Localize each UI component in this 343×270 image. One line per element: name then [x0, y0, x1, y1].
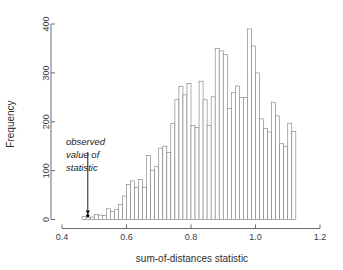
annotation-line: observed: [66, 136, 106, 147]
annotation-arrowhead-icon: [86, 211, 90, 215]
histogram-bar: [203, 100, 207, 220]
observed-value-annotation: observedvalue ofstatistic: [66, 136, 106, 217]
histogram-bar: [268, 132, 272, 219]
histogram-bars: [82, 29, 296, 220]
histogram-bar: [143, 187, 147, 219]
histogram-bar: [264, 129, 268, 220]
chart-canvas: 0100200300400 0.40.60.81.01.2 Frequency …: [0, 0, 343, 270]
histogram-bar: [231, 92, 235, 219]
histogram-bar: [151, 170, 155, 219]
histogram-bar: [102, 216, 106, 220]
y-tick-label: 100: [41, 163, 51, 178]
histogram-bar: [247, 29, 251, 220]
histogram-bar: [94, 215, 98, 220]
annotation-line: statistic: [66, 162, 98, 173]
histogram-bar: [272, 102, 276, 219]
histogram-bar: [191, 126, 195, 220]
y-tick-label: 0: [41, 217, 51, 222]
x-tick-label: 1.0: [249, 232, 262, 242]
histogram-bar: [118, 204, 122, 219]
histogram-bar: [147, 155, 151, 219]
annotation-line: value of: [66, 149, 101, 160]
histogram-bar: [171, 124, 175, 220]
histogram-bar: [223, 54, 227, 219]
y-axis: 0100200300400: [41, 16, 55, 222]
histogram-bar: [292, 132, 296, 220]
histogram-bar: [183, 95, 187, 220]
x-tick-label: 1.2: [314, 232, 327, 242]
histogram-bar: [288, 123, 292, 219]
histogram-bar: [110, 211, 114, 219]
histogram-bar: [155, 167, 159, 220]
histogram-bar: [187, 84, 191, 220]
x-tick-label: 0.4: [56, 232, 69, 242]
x-tick-label: 0.6: [120, 232, 133, 242]
histogram-bar: [251, 46, 255, 220]
histogram-bar: [131, 181, 135, 220]
histogram-bar: [219, 51, 223, 220]
histogram-bar: [114, 210, 118, 220]
y-tick-label: 300: [41, 65, 51, 80]
histogram-bar: [195, 128, 199, 220]
histogram-chart: 0100200300400 0.40.60.81.01.2 Frequency …: [0, 0, 343, 270]
histogram-bar: [82, 217, 86, 220]
y-tick-label: 400: [41, 16, 51, 31]
histogram-bar: [256, 73, 260, 220]
histogram-bar: [243, 97, 247, 219]
x-axis-title: sum-of-distances statistic: [136, 253, 248, 264]
histogram-bar: [260, 119, 264, 220]
histogram-bar: [139, 179, 143, 219]
histogram-bar: [98, 215, 102, 219]
histogram-bar: [235, 86, 239, 219]
y-tick-label: 200: [41, 114, 51, 129]
histogram-bar: [179, 87, 183, 220]
histogram-bar: [284, 146, 288, 219]
histogram-bar: [159, 148, 163, 219]
x-tick-label: 0.8: [185, 232, 198, 242]
histogram-bar: [207, 126, 211, 220]
histogram-bar: [215, 48, 219, 219]
histogram-bar: [167, 153, 171, 220]
histogram-bar: [175, 100, 179, 220]
histogram-bar: [276, 116, 280, 220]
observed-value-marker: [86, 214, 89, 217]
histogram-bar: [280, 144, 284, 220]
x-axis: 0.40.60.81.01.2: [56, 225, 327, 242]
histogram-bar: [227, 109, 231, 220]
histogram-bar: [90, 217, 94, 219]
y-axis-title: Frequency: [5, 100, 16, 147]
histogram-bar: [239, 97, 243, 219]
histogram-bar: [199, 81, 203, 219]
histogram-bar: [127, 184, 131, 219]
histogram-bar: [122, 196, 126, 219]
histogram-bar: [135, 187, 139, 219]
histogram-bar: [211, 97, 215, 220]
histogram-bar: [86, 218, 90, 220]
histogram-bar: [163, 146, 167, 219]
histogram-bar: [106, 209, 110, 220]
